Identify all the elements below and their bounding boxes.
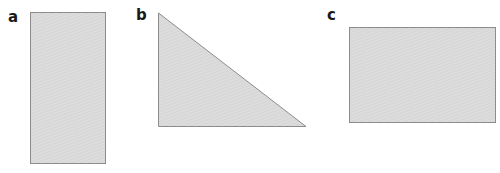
- shapes-canvas: [0, 0, 500, 173]
- rectangle-a: [31, 13, 106, 164]
- rectangle-c: [350, 28, 496, 123]
- triangle-b: [159, 13, 307, 127]
